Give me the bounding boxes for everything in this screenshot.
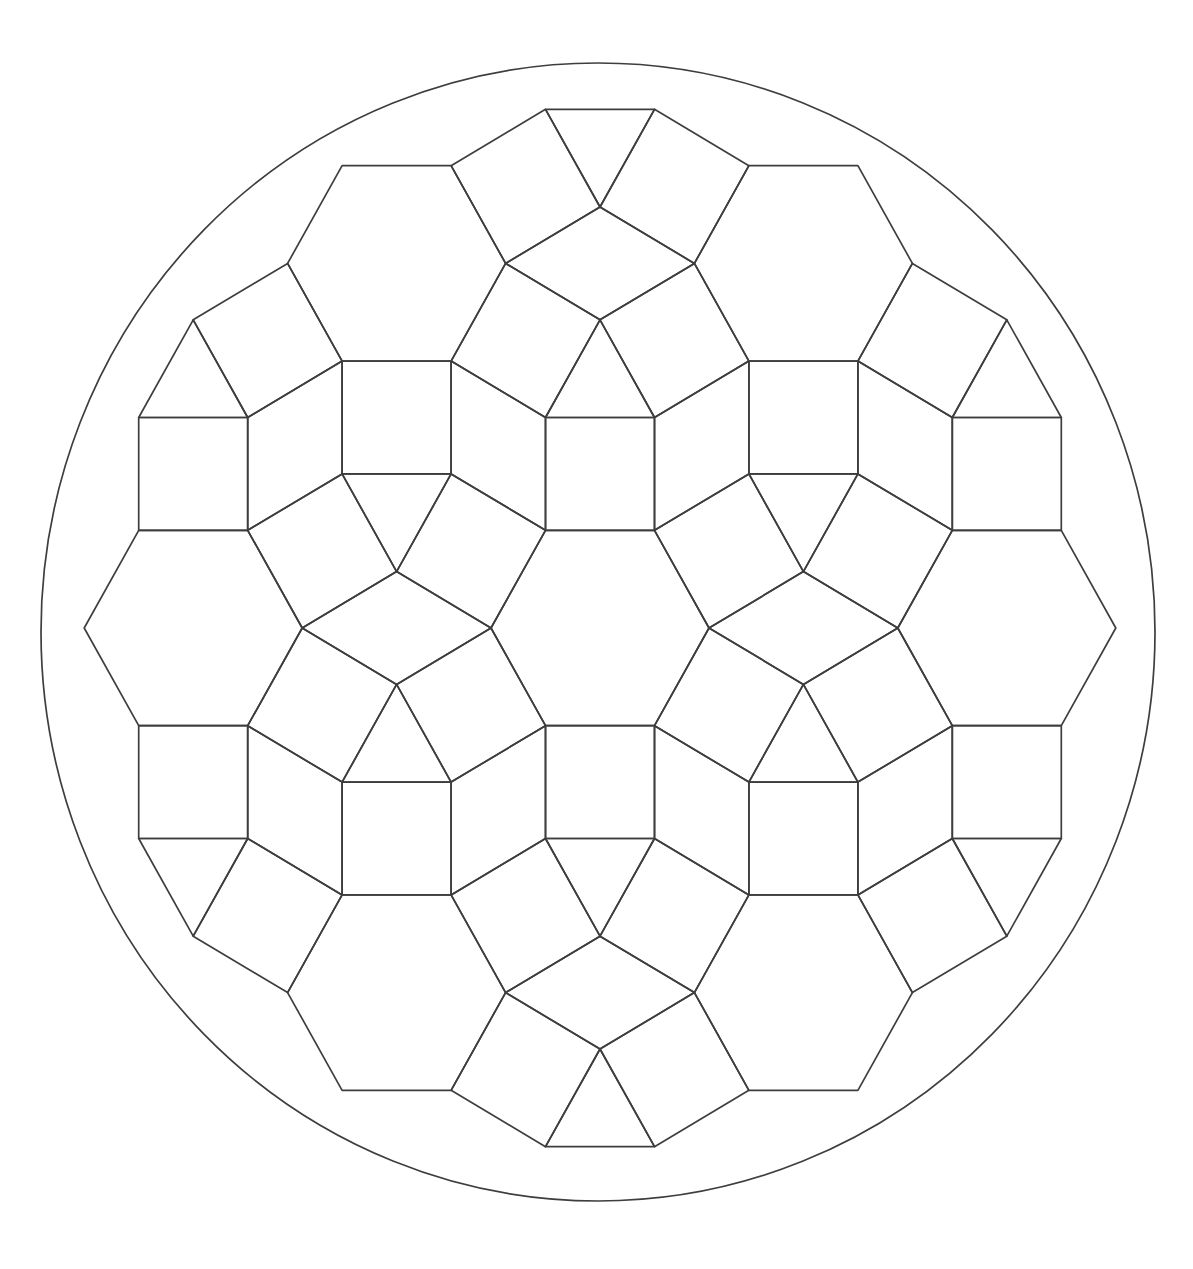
square-tile-R-S: [952, 726, 1061, 839]
square-tile-BL-NE: [451, 839, 600, 993]
rhombus-tile-C-BR: [655, 726, 749, 895]
square-tile-BR-N: [749, 782, 858, 895]
hexagon-tile-C: [491, 530, 709, 725]
rhombus-tile-BR-R: [858, 726, 952, 895]
hexagon-tile-BL: [288, 895, 506, 1090]
square-tile-L-S: [139, 726, 248, 839]
triangle-tile-T10: [952, 320, 1061, 418]
square-tile-TR-NW: [600, 109, 749, 263]
square-tile-R-SW: [803, 628, 952, 782]
square-tile-L-SE: [248, 628, 397, 782]
square-tile-BL-SE: [451, 993, 600, 1147]
square-tile-C-SW: [397, 628, 546, 782]
square-tile-TR-SW: [600, 263, 749, 417]
rhombus-tile-C-R: [709, 572, 898, 685]
square-tile-TR-SE: [858, 263, 1007, 417]
square-tile-BR-SW: [600, 993, 749, 1147]
hexagon-tile-R: [898, 530, 1116, 725]
triangle-tile-T11: [139, 839, 248, 937]
rhombus-tile-TR-R: [858, 361, 952, 530]
rhombus-tile-C-TR: [655, 361, 749, 530]
square-tile-BL-N: [342, 782, 451, 895]
hexagon-tile-BR: [694, 895, 912, 1090]
triangle-tile-T6: [749, 684, 858, 782]
square-tile-TL-NE: [451, 109, 600, 263]
square-tile-BR-NE: [858, 839, 1007, 993]
rhombus-tile-TL-TR: [506, 207, 695, 320]
triangle-tile-T8: [546, 1049, 655, 1147]
square-tile-C-S: [546, 726, 655, 839]
square-tile-TL-S: [342, 361, 451, 474]
triangle-tile-T7: [546, 109, 655, 207]
rhombus-tile-L-TL: [248, 361, 342, 530]
square-tile-R-N: [952, 418, 1061, 531]
triangle-tile-T3: [749, 474, 858, 572]
square-tile-BL-NW: [193, 839, 342, 993]
triangle-tile-T4: [342, 684, 451, 782]
coloring-page: [0, 0, 1193, 1269]
square-tile-BR-NW: [600, 839, 749, 993]
rhombus-tile-L-C: [302, 572, 491, 685]
hexagon-tile-L: [84, 530, 302, 725]
square-tile-TR-S: [749, 361, 858, 474]
rhombus-tile-L-BL: [248, 726, 342, 895]
square-tile-L-NE: [248, 474, 397, 628]
square-tile-C-N: [546, 418, 655, 531]
geometric-pattern-svg: [0, 0, 1193, 1269]
rhombus-tile-BL-BR: [506, 936, 695, 1049]
rhombus-tile-TL-C: [451, 361, 545, 530]
square-tile-TL-SE: [451, 263, 600, 417]
tessellation-group: [41, 63, 1155, 1201]
outer-circle: [41, 63, 1155, 1201]
rhombus-tile-BL-C: [451, 726, 545, 895]
hexagon-tile-TL: [288, 166, 506, 361]
square-tile-L-N: [139, 418, 248, 531]
square-tile-TL-SW: [193, 263, 342, 417]
square-tile-C-NE: [655, 474, 804, 628]
triangle-tile-T1: [546, 320, 655, 418]
triangle-tile-T5: [546, 839, 655, 937]
triangle-tile-T12: [952, 839, 1061, 937]
triangle-tile-T2: [342, 474, 451, 572]
triangle-tile-T9: [139, 320, 248, 418]
square-tile-C-SE: [655, 628, 804, 782]
hexagon-tile-TR: [694, 166, 912, 361]
square-tile-C-NW: [397, 474, 546, 628]
square-tile-R-NW: [803, 474, 952, 628]
